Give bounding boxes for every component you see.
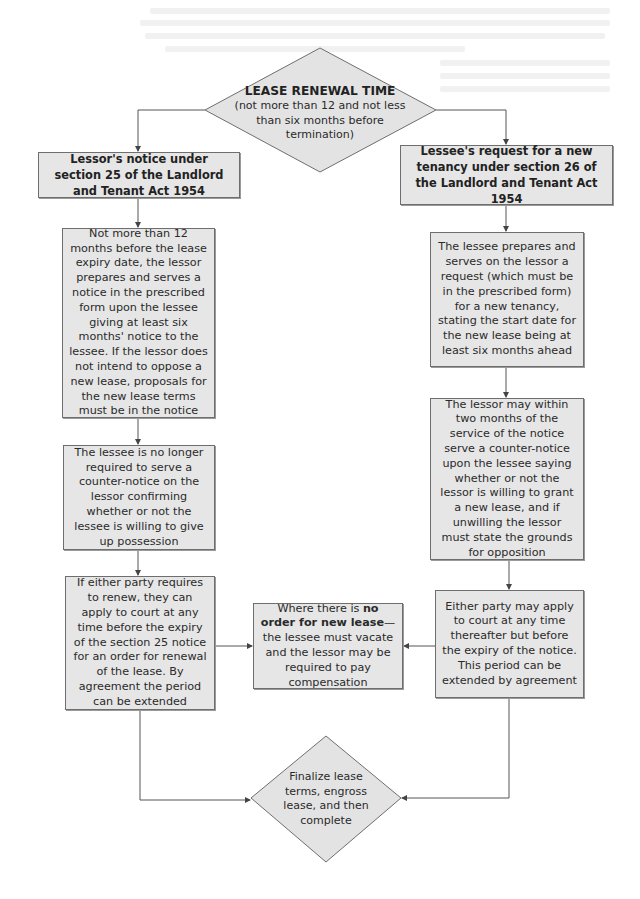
left-step-1: Not more than 12 months before the lease… <box>62 228 215 418</box>
start-title: LEASE RENEWAL TIME <box>245 83 396 99</box>
right-step-3: Either party may apply to court at any t… <box>435 590 584 698</box>
lessee-request-header: Lessee's request for a new tenancy under… <box>400 145 613 205</box>
left-step-2: The lessee is no longer required to serv… <box>63 445 215 550</box>
start-subtitle: (not more than 12 and not less than six … <box>222 99 418 143</box>
lessor-notice-header: Lessor's notice under section 25 of the … <box>38 152 240 198</box>
end-node: Finalize lease terms, engross lease, and… <box>271 776 381 822</box>
right-step-1: The lessee prepares and serves on the le… <box>430 232 584 367</box>
left-step-3: If either party requires to renew, they … <box>65 576 215 710</box>
right-step-2: The lessor may within two months of the … <box>430 398 584 560</box>
no-order-outcome: Where there is no order for new lease—th… <box>253 603 403 689</box>
start-node: LEASE RENEWAL TIME (not more than 12 and… <box>222 82 418 144</box>
